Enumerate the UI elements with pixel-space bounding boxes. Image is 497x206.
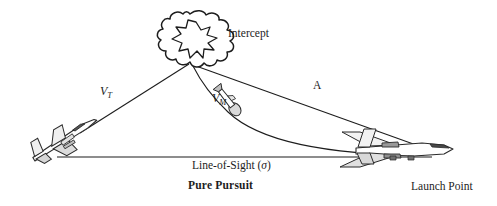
target-velocity-subscript: T	[107, 90, 112, 100]
target-velocity-line	[80, 64, 189, 133]
line-of-sight-label: Line-of-Sight (σ)	[192, 160, 271, 172]
missile-velocity-subscript: M	[219, 97, 226, 107]
figure-title: Pure Pursuit	[188, 180, 253, 192]
launch-point-label: Launch Point	[411, 181, 473, 193]
pure-pursuit-diagram: Intercept Launch Point Line-of-Sight (σ)…	[0, 0, 497, 206]
target-velocity-label: VT	[100, 85, 112, 100]
missile-velocity-label: VM	[212, 92, 226, 107]
explosion-burst-icon	[157, 11, 233, 67]
target-aircraft-icon	[26, 107, 105, 171]
launch-aircraft-icon	[340, 129, 453, 167]
line-of-sight-label-prefix: Line-of-Sight (	[192, 159, 261, 171]
intercept-label: Intercept	[228, 28, 269, 40]
line-of-sight-label-suffix: )	[267, 159, 271, 171]
range-line-label: A	[313, 80, 321, 92]
pursuit-trajectory-curve	[193, 66, 424, 155]
